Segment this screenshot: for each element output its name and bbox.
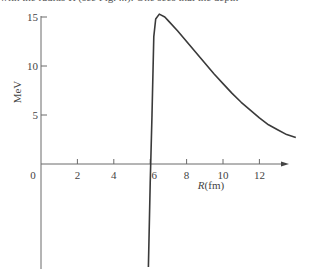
x-axis-label: R(fm) xyxy=(197,179,225,192)
x-tick-label: 12 xyxy=(254,169,265,181)
y-tick-label: 10 xyxy=(27,60,39,72)
potential-line xyxy=(148,14,295,267)
x-tick-label: 6 xyxy=(151,169,157,181)
x-tick-label: 4 xyxy=(111,169,117,181)
y-axis-label: MeV xyxy=(11,81,23,104)
x-tick-label: 0 xyxy=(30,169,36,181)
y-tick-label: 5 xyxy=(33,109,39,121)
potential-curve xyxy=(148,14,295,267)
x-tick-label: 2 xyxy=(75,169,81,181)
y-tick-label: 15 xyxy=(27,11,39,23)
x-tick-label: 8 xyxy=(184,169,190,181)
ticks: 51015024681012 xyxy=(27,11,265,181)
x-axis-arrow-icon xyxy=(281,162,289,167)
axes xyxy=(41,16,289,269)
potential-chart: 51015024681012 MeV R(fm) xyxy=(0,0,312,269)
